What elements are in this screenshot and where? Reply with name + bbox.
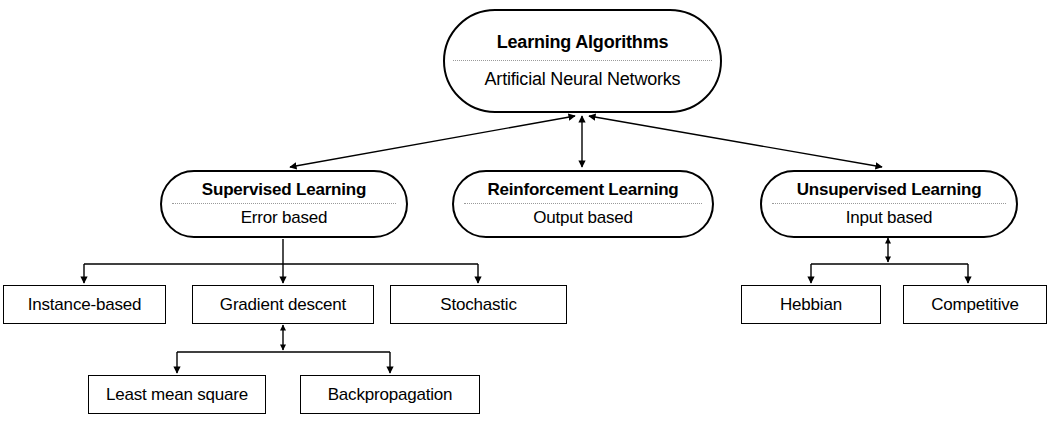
edge-root-unsupervised [589,116,882,167]
node-reinforcement-learning-title: Reinforcement Learning [454,180,712,200]
node-learning-algorithms-subtitle: Artificial Neural Networks [445,69,720,90]
node-instance-based-label: Instance-based [4,295,165,315]
node-backpropagation-label: Backpropagation [301,385,479,405]
learning-algorithms-diagram: Learning Algorithms Artificial Neural Ne… [0,0,1052,428]
node-reinforcement-learning-subtitle: Output based [454,208,712,228]
node-hebbian-label: Hebbian [742,295,880,315]
node-reinforcement-learning[interactable]: Reinforcement Learning Output based [452,170,714,238]
node-divider [453,60,712,61]
node-supervised-learning[interactable]: Supervised Learning Error based [160,170,408,238]
node-supervised-learning-title: Supervised Learning [162,180,406,200]
node-unsupervised-learning-subtitle: Input based [762,208,1016,228]
node-backpropagation[interactable]: Backpropagation [300,375,480,414]
node-instance-based[interactable]: Instance-based [3,285,166,324]
node-gradient-descent[interactable]: Gradient descent [192,285,374,324]
node-competitive[interactable]: Competitive [903,285,1047,324]
node-unsupervised-learning-title: Unsupervised Learning [762,180,1016,200]
node-gradient-descent-label: Gradient descent [193,295,373,315]
node-learning-algorithms[interactable]: Learning Algorithms Artificial Neural Ne… [443,9,722,113]
node-divider [772,203,1006,204]
edge-root-supervised [290,116,575,167]
node-hebbian[interactable]: Hebbian [741,285,881,324]
node-least-mean-square-label: Least mean square [89,385,265,405]
node-learning-algorithms-title: Learning Algorithms [445,32,720,53]
node-unsupervised-learning[interactable]: Unsupervised Learning Input based [760,170,1018,238]
node-stochastic[interactable]: Stochastic [390,285,567,324]
node-least-mean-square[interactable]: Least mean square [88,375,266,414]
node-competitive-label: Competitive [904,295,1046,315]
node-supervised-learning-subtitle: Error based [162,208,406,228]
node-stochastic-label: Stochastic [391,295,566,315]
node-divider [172,203,396,204]
node-divider [464,203,702,204]
